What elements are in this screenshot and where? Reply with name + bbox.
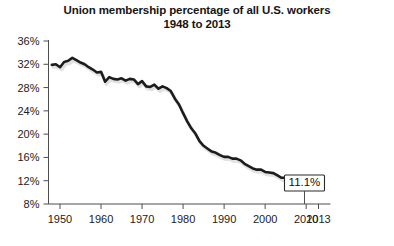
- x-axis-tick-label: 1960: [89, 213, 113, 225]
- union-membership-line: [52, 58, 319, 186]
- x-axis-tick-label: 1980: [171, 213, 195, 225]
- callout-value-label: 11.1%: [289, 176, 321, 188]
- y-axis-tick-label: 12%: [17, 175, 39, 187]
- x-axis-tick-label: 1950: [48, 213, 72, 225]
- x-axis-tick-label: 2000: [253, 213, 277, 225]
- line-chart-plot: 8%12%16%20%24%28%32%36% 1950196019701980…: [0, 0, 394, 246]
- y-axis: 8%12%16%20%24%28%32%36%: [17, 35, 48, 210]
- x-axis-tick-label: 2013: [306, 213, 330, 225]
- x-axis-tick-label: 1990: [212, 213, 236, 225]
- y-axis-tick-label: 8%: [24, 198, 40, 210]
- x-axis: 19501960197019801990200020102013: [48, 204, 331, 225]
- y-axis-tick-label: 28%: [17, 82, 39, 94]
- y-axis-tick-label: 32%: [17, 58, 39, 70]
- chart-container: Union membership percentage of all U.S. …: [0, 0, 394, 246]
- x-axis-tick-label: 1970: [130, 213, 154, 225]
- y-axis-tick-label: 16%: [17, 151, 39, 163]
- callout-annotation: 11.1%: [284, 175, 324, 204]
- y-axis-tick-label: 36%: [17, 35, 39, 47]
- series-shadow: [53, 60, 320, 188]
- y-axis-tick-label: 24%: [17, 105, 39, 117]
- y-axis-tick-label: 20%: [17, 128, 39, 140]
